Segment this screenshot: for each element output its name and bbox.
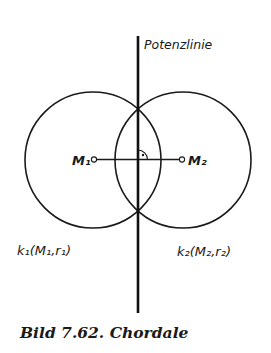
figure-caption: Bild 7.62. Chordale: [19, 323, 189, 342]
right-angle-dot-icon: [142, 154, 144, 156]
center-point-m2: [179, 157, 184, 162]
chordale-diagram: Potenzlinie M₁ M₂ k₁(M₁,r₁) k₂(M₂,r₂) Bi…: [0, 0, 271, 353]
center-label-m2: M₂: [188, 153, 207, 168]
power-line-label: Potenzlinie: [144, 37, 213, 52]
circle-label-k2: k₂(M₂,r₂): [177, 244, 231, 259]
circle-label-k1: k₁(M₁,r₁): [17, 243, 71, 258]
center-point-m1: [91, 157, 96, 162]
center-label-m1: M₁: [72, 153, 91, 168]
